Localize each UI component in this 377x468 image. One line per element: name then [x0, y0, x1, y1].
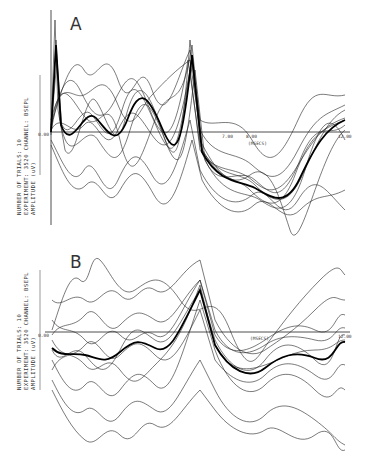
panel-b: B NUMBER OF TRIALS: 10 EXPERIMENT: 3520 …: [0, 240, 377, 468]
y-origin-tick: 0.00: [38, 132, 49, 137]
x-tick: 8.00: [246, 134, 257, 139]
x-unit: (MSECS): [248, 141, 267, 146]
y-origin-tick: 0.00: [38, 333, 49, 338]
x-unit: (MSECS): [250, 336, 269, 341]
panel-a: A NUMBER OF TRIALS: 10 EXPERIMENT: 3520 …: [0, 0, 377, 240]
x-tick: 7.00: [222, 134, 233, 139]
traces: [51, 20, 345, 235]
average-trace: [51, 45, 345, 198]
plot-a: 0.00 7.00 8.00 (MSECS) 12.00: [0, 0, 377, 240]
plot-b: 0.00 (MSECS) 12.00: [0, 240, 377, 468]
